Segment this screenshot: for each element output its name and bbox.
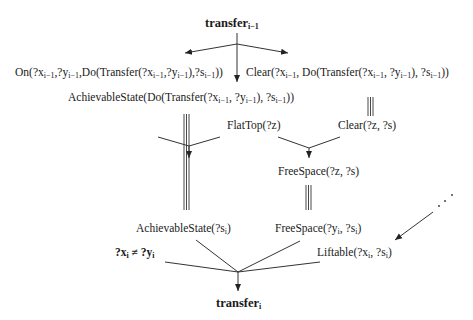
node-text: Clear(?z, ?s) (338, 119, 396, 131)
node-text: )) (441, 66, 449, 78)
node-text: Liftable(?x (317, 246, 368, 258)
node-text: , ?y (229, 91, 246, 103)
node-transfer-prev: transferi−1 (205, 16, 259, 30)
node-text: FreeSpace(?y (275, 222, 338, 234)
node-text: ,?y (54, 66, 68, 78)
node-text: AchievableState(?s (136, 222, 225, 234)
edges-layer (0, 0, 473, 320)
node-text: ) (227, 222, 231, 234)
edge-top-clear (237, 44, 288, 53)
node-freespace-z: FreeSpace(?z, ?s) (278, 164, 359, 178)
subscript: i−1 (430, 71, 441, 80)
node-achievable-prev: AchievableState(Do(Transfer(?xi−1, ?yi−1… (68, 90, 294, 104)
node-on: On(?xi−1,?yi−1,Do(Transfer(?xi−1,?yi−1),… (15, 65, 223, 79)
subscript: i−1 (373, 71, 384, 80)
node-text: AchievableState(Do(Transfer(?x (68, 91, 218, 103)
subscript: i−1 (276, 96, 287, 105)
edge-ellipsis-liftable (395, 212, 433, 240)
node-text: , ?s (370, 246, 385, 258)
edge-top-on (185, 44, 237, 53)
subscript: i (152, 251, 154, 260)
node-text: , ?y (384, 66, 401, 78)
subscript: i−1 (204, 71, 215, 80)
node-freespace-i: FreeSpace(?yi, ?si) (275, 221, 361, 235)
subscript: i−1 (177, 71, 188, 80)
subscript: i−1 (401, 71, 412, 80)
node-flattop: FlatTop(?z) (227, 118, 280, 132)
subscript: i−1 (218, 96, 229, 105)
subscript: i−1 (153, 71, 164, 80)
node-text: ),?s (188, 66, 204, 78)
node-text: ,Do(Transfer(?x (79, 66, 153, 78)
node-text: ), ?s (256, 91, 275, 103)
subscript: i−1 (68, 71, 79, 80)
subscript: i−1 (44, 71, 55, 80)
node-text: , Do(Transfer(?x (296, 66, 373, 78)
node-text: , ?s (340, 222, 355, 234)
node-text: FlatTop(?z) (227, 119, 280, 131)
node-text: transfer (216, 296, 259, 310)
node-text: ?x (115, 246, 127, 258)
node-text: )) (286, 91, 294, 103)
subscript: i (259, 302, 261, 311)
node-achievable-i: AchievableState(?si) (136, 221, 231, 235)
node-text: ≠ ?y (129, 246, 153, 258)
node-liftable: Liftable(?xi, ?si) (317, 245, 392, 259)
subscript: i−1 (286, 71, 297, 80)
node-neq: ?xi ≠ ?yi (115, 245, 155, 259)
node-text: FreeSpace(?z, ?s) (278, 165, 359, 177)
node-text: On(?x (15, 66, 44, 78)
node-text: transfer (205, 16, 248, 30)
node-text: )) (215, 66, 223, 78)
subscript: i−1 (246, 96, 257, 105)
node-transfer-i: transferi (216, 296, 261, 310)
subscript: i−1 (248, 22, 259, 31)
node-text: ) (357, 222, 361, 234)
node-text: Clear(?x (246, 66, 286, 78)
node-text: ), ?s (411, 66, 430, 78)
node-text: ,?y (164, 66, 178, 78)
node-clear-z: Clear(?z, ?s) (338, 118, 396, 132)
node-clear-prev: Clear(?xi−1, Do(Transfer(?xi−1, ?yi−1), … (246, 65, 449, 79)
node-text: ) (388, 246, 392, 258)
